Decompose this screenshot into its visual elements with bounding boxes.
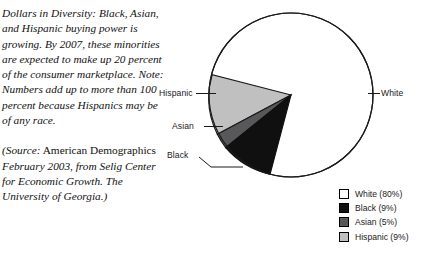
legend-swatch-asian: [339, 217, 349, 227]
legend-item-hispanic: Hispanic (9%): [339, 231, 409, 242]
legend-swatch-hispanic: [339, 232, 349, 242]
legend-item-black: Black (9%): [339, 202, 409, 213]
source-detail: February 2003, from Selig Center for Eco…: [2, 160, 156, 203]
hispanic-callout: Hispanic: [159, 88, 193, 98]
figure-caption: Dollars in Diversity: Black, Asian, and …: [2, 6, 168, 205]
asian-leader-line: [204, 126, 223, 127]
caption-source: (Source: American Demographics February …: [2, 143, 168, 204]
black-callout: Black: [167, 150, 189, 160]
legend-item-asian: Asian (5%): [339, 217, 409, 228]
source-prefix: (Source:: [2, 144, 40, 156]
hispanic-leader-line: [196, 93, 216, 94]
legend-label-asian: Asian (5%): [355, 217, 397, 227]
legend-item-white: White (80%): [339, 188, 409, 199]
chart-legend: White (80%) Black (9%) Asian (5%) Hispan…: [339, 188, 409, 242]
legend-label-white: White (80%): [355, 189, 402, 199]
white-callout: White: [381, 88, 403, 98]
black-leader-line: [197, 148, 247, 170]
legend-swatch-white: [339, 189, 349, 199]
legend-swatch-black: [339, 203, 349, 213]
legend-label-hispanic: Hispanic (9%): [355, 232, 409, 242]
caption-body: Dollars in Diversity: Black, Asian, and …: [2, 6, 168, 128]
legend-label-black: Black (9%): [355, 203, 397, 213]
white-leader-line: [368, 93, 380, 94]
asian-callout: Asian: [172, 121, 194, 131]
source-publication: American Demographics: [40, 144, 155, 156]
